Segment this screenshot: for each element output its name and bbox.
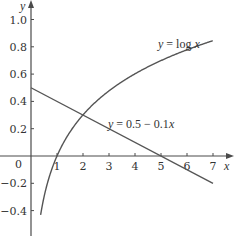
y-tick-label: 0 (15, 158, 22, 171)
y-tick-label: −0.4 (0, 205, 27, 218)
chart: 1234567−0.4−0.200.20.40.60.81.0 y x y = … (0, 0, 234, 236)
x-tick-label: 3 (106, 160, 113, 173)
y-tick-label: 0.6 (10, 68, 28, 81)
y-tick-label: 1.0 (10, 14, 28, 27)
y-tick-label: 0.4 (10, 95, 28, 108)
log-curve-label: y = log x (157, 37, 200, 51)
y-tick-label: 0.8 (10, 41, 28, 54)
y-tick-label: 0.2 (10, 123, 28, 136)
y-tick-label: −0.2 (0, 177, 27, 190)
x-tick-label: 5 (158, 160, 165, 173)
line-curve-label: y = 0.5 − 0.1x (107, 117, 175, 131)
y-axis-arrow-icon (28, 0, 34, 8)
x-tick-label: 4 (132, 160, 139, 173)
x-tick-label: 2 (80, 160, 87, 173)
y-axis-label: y (19, 0, 26, 13)
x-tick-label: 7 (210, 160, 217, 173)
x-axis-label: x (223, 159, 230, 173)
